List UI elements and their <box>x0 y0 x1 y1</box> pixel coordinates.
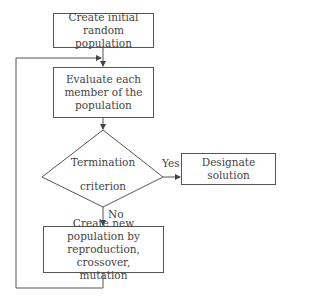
node-evaluate-population: Evaluate each member of the population <box>53 67 154 118</box>
node-text: Evaluate each <box>64 73 142 86</box>
node-designate-solution: Designate solution <box>181 153 276 185</box>
edge-label-yes: Yes <box>162 157 180 169</box>
decision-label-line1: Termination <box>43 156 163 168</box>
node-text: random population <box>54 24 153 50</box>
node-text: Designate solution <box>182 156 275 182</box>
node-text: population <box>64 99 142 112</box>
node-text: member of the <box>64 86 142 99</box>
decision-label-line2: criterion <box>43 180 163 192</box>
node-text: mutation <box>44 269 163 282</box>
node-text: Create new population by <box>44 217 163 243</box>
node-text: Create initial <box>54 11 153 24</box>
decision-diamond <box>42 130 163 207</box>
node-create-initial-population: Create initial random population <box>53 13 154 48</box>
node-create-new-population: Create new population by reproduction, c… <box>43 226 164 273</box>
node-text: reproduction, crossover, <box>44 243 163 269</box>
